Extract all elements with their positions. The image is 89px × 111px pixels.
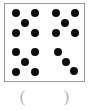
dot-marker: [62, 58, 70, 66]
dot-marker: [31, 29, 39, 37]
dot-marker: [21, 19, 29, 27]
answer-input[interactable]: [26, 88, 64, 104]
dot-marker: [52, 9, 60, 17]
dot-marker: [31, 68, 39, 76]
dot-marker: [70, 67, 78, 75]
dot-field-box: [4, 3, 85, 82]
dot-marker: [21, 58, 29, 66]
dot-marker: [31, 9, 39, 17]
dot-marker: [12, 48, 20, 56]
dot-marker: [31, 48, 39, 56]
dot-marker: [71, 9, 79, 17]
counting-worksheet: ( ): [0, 0, 89, 111]
dot-marker: [12, 9, 20, 17]
dot-marker: [61, 19, 69, 27]
dot-marker: [54, 48, 62, 56]
dot-marker: [52, 29, 60, 37]
dot-marker: [71, 29, 79, 37]
dot-marker: [12, 29, 20, 37]
answer-field[interactable]: ( ): [4, 84, 85, 108]
dot-marker: [12, 68, 20, 76]
close-paren: ): [64, 88, 70, 105]
